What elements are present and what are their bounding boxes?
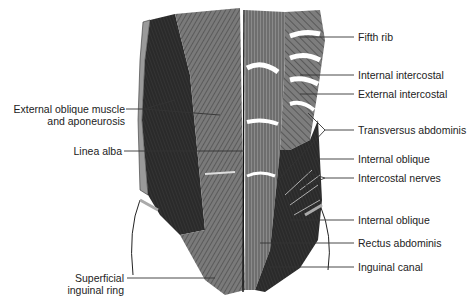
label-internal-oblique-upper: Internal oblique: [358, 153, 430, 165]
label-transversus-abdominis: Transversus abdominis: [358, 124, 466, 136]
label-external-oblique: External oblique muscle and aponeurosis: [10, 103, 125, 127]
label-rectus-abdominis: Rectus abdominis: [358, 237, 441, 249]
label-external-intercostal: External intercostal: [358, 88, 447, 100]
label-superficial-inguinal-ring-line2: inguinal ring: [10, 284, 124, 296]
label-intercostal-nerves: Intercostal nerves: [358, 172, 441, 184]
label-internal-intercostal: Internal intercostal: [358, 69, 444, 81]
label-internal-oblique-lower: Internal oblique: [358, 214, 430, 226]
label-external-oblique-line1: External oblique muscle: [10, 103, 125, 115]
label-inguinal-canal: Inguinal canal: [358, 261, 423, 273]
label-superficial-inguinal-ring-line1: Superficial: [10, 272, 124, 284]
label-superficial-inguinal-ring: Superficial inguinal ring: [10, 272, 124, 296]
anatomy-figure: External oblique muscle and aponeurosis …: [0, 0, 471, 304]
label-fifth-rib: Fifth rib: [358, 31, 393, 43]
label-external-oblique-line2: and aponeurosis: [10, 115, 125, 127]
label-linea-alba: Linea alba: [10, 145, 122, 157]
